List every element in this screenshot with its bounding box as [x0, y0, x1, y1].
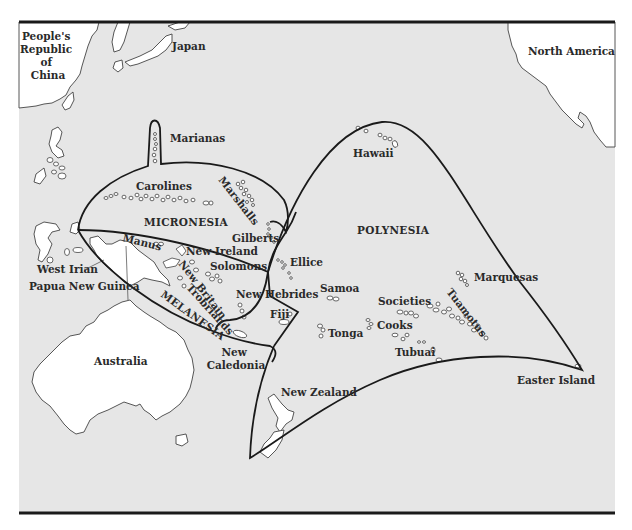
- label-fiji: Fiji: [270, 308, 289, 320]
- island: [178, 276, 183, 280]
- island: [215, 274, 219, 278]
- island: [52, 170, 57, 174]
- island: [279, 320, 289, 325]
- island: [206, 272, 211, 276]
- label-japan: Japan: [171, 40, 206, 52]
- island: [218, 279, 222, 283]
- label-tubuai: Tubuai: [395, 346, 435, 358]
- label-carolines: Carolines: [136, 180, 192, 192]
- label-west-irian: West Irian: [36, 263, 98, 275]
- label-solomons: Solomons: [210, 260, 267, 272]
- island: [238, 303, 242, 307]
- label-societies: Societies: [378, 295, 431, 307]
- island: [47, 158, 53, 163]
- island: [73, 248, 83, 253]
- island: [210, 277, 215, 281]
- island: [240, 309, 244, 313]
- island: [59, 166, 65, 170]
- island: [54, 162, 59, 166]
- label-north-america: North America: [528, 45, 615, 57]
- label-gilberts: Gilberts: [232, 232, 279, 244]
- label-easter-island: Easter Island: [517, 374, 596, 386]
- samoa-islands: [327, 296, 339, 301]
- label-australia: Australia: [93, 355, 148, 367]
- label-new-hebrides: New Hebrides: [236, 288, 318, 300]
- label-new-ireland: New Ireland: [186, 245, 259, 257]
- label-tonga: Tonga: [328, 327, 364, 339]
- island: [58, 173, 66, 179]
- label-samoa: Samoa: [320, 282, 359, 294]
- label-hawaii: Hawaii: [353, 147, 394, 159]
- pacific-culture-areas-map: People's Republic of China Japan North A…: [0, 0, 632, 530]
- label-cooks: Cooks: [377, 319, 413, 331]
- label-new-zealand: New Zealand: [281, 386, 358, 398]
- label-polynesia: POLYNESIA: [357, 224, 430, 236]
- label-papua-new-guinea: Papua New Guinea: [29, 280, 140, 292]
- island: [65, 249, 70, 256]
- label-micronesia: MICRONESIA: [144, 216, 229, 228]
- label-marquesas: Marquesas: [474, 271, 538, 283]
- label-marianas: Marianas: [170, 132, 225, 144]
- label-ellice: Ellice: [290, 256, 323, 268]
